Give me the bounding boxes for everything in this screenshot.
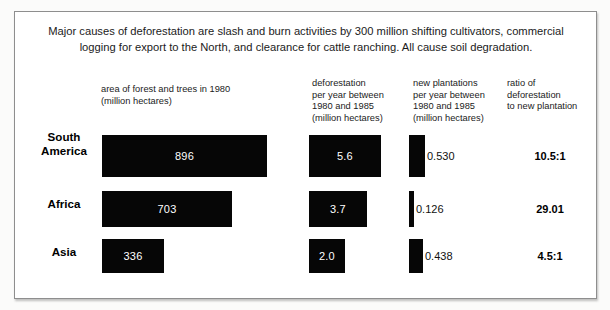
header-line: (million hectares) (413, 113, 508, 125)
caption-line-1: Major causes of deforestation are slash … (31, 24, 581, 40)
column-header-forest-area: area of forest and trees in 1980 (millio… (101, 84, 301, 107)
row-label-asia: Asia (25, 245, 103, 259)
bar-new-plantations (409, 239, 423, 273)
table-row: Asia 336 2.0 0.438 4.5:1 (15, 235, 598, 279)
row-label-south-america: South America (25, 130, 103, 157)
bar-value-label: 336 (124, 250, 143, 262)
bar-value-label-plantations: 0.530 (427, 135, 455, 177)
header-line: (million hectares) (101, 96, 301, 108)
bar-value-label: 703 (158, 203, 177, 215)
bar-deforestation: 2.0 (309, 239, 345, 273)
ratio-value: 10.5:1 (504, 135, 596, 177)
column-header-deforestation: deforestation per year between 1980 and … (312, 78, 407, 124)
header-line: deforestation (507, 90, 599, 102)
bar-forest-area: 896 (102, 135, 267, 177)
bar-deforestation: 3.7 (309, 191, 367, 227)
caption-line-2: logging for export to the North, and cle… (31, 40, 581, 56)
table-row: South America 896 5.6 0.530 10.5:1 (15, 130, 598, 182)
header-line: new plantations (413, 78, 508, 90)
header-line: 1980 and 1985 (312, 101, 407, 113)
bar-forest-area: 703 (102, 191, 232, 227)
header-line: 1980 and 1985 (413, 101, 508, 113)
ratio-value: 4.5:1 (504, 239, 596, 273)
ratio-value: 29.01 (504, 191, 596, 227)
bar-value-label-plantations: 0.438 (425, 239, 453, 273)
bar-value-label-plantations: 0.126 (416, 191, 444, 227)
row-label-africa: Africa (25, 197, 103, 211)
header-line: per year between (312, 90, 407, 102)
bar-value-label: 3.7 (330, 203, 346, 215)
header-line: to new plantation (507, 101, 599, 113)
bar-value-label: 2.0 (319, 250, 335, 262)
chart-frame: Major causes of deforestation are slash … (14, 11, 597, 299)
bar-value-label: 896 (175, 150, 194, 162)
bar-deforestation: 5.6 (309, 135, 381, 177)
column-header-ratio: ratio of deforestation to new plantation (507, 78, 599, 113)
header-line: deforestation (312, 78, 407, 90)
header-line: (million hectares) (312, 113, 407, 125)
chart-page: Major causes of deforestation are slash … (0, 0, 610, 310)
bar-value-label: 5.6 (337, 150, 353, 162)
header-line: ratio of (507, 78, 599, 90)
table-row: Africa 703 3.7 0.126 29.01 (15, 187, 598, 231)
chart-caption: Major causes of deforestation are slash … (31, 24, 581, 55)
bar-forest-area: 336 (102, 239, 164, 273)
bar-new-plantations (409, 191, 414, 227)
header-line: per year between (413, 90, 508, 102)
column-header-new-plantations: new plantations per year between 1980 an… (413, 78, 508, 124)
bar-new-plantations (409, 135, 425, 177)
header-line: area of forest and trees in 1980 (101, 84, 301, 96)
